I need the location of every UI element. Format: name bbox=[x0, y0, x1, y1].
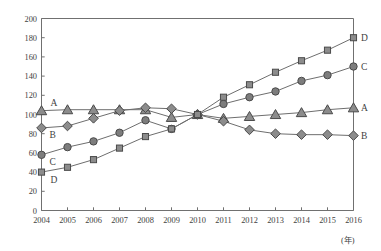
x-axis-tick-label: 2008 bbox=[137, 216, 154, 225]
series-marker-C bbox=[142, 117, 149, 124]
series-marker-D bbox=[168, 126, 174, 132]
series-marker-B bbox=[271, 129, 281, 139]
x-axis-tick-label: 2014 bbox=[293, 216, 311, 225]
series-marker-C bbox=[220, 100, 227, 107]
scan-bleed-artifact bbox=[0, 0, 381, 14]
series-start-label-C: C bbox=[50, 157, 56, 167]
x-axis-tick-label: 2009 bbox=[163, 216, 180, 225]
series-marker-B bbox=[37, 123, 47, 133]
series-marker-C bbox=[64, 143, 71, 150]
series-marker-D bbox=[116, 145, 122, 151]
series-marker-B bbox=[349, 131, 359, 141]
series-marker-B bbox=[245, 125, 255, 135]
series-marker-C bbox=[116, 129, 123, 136]
y-axis-tick-label: 200 bbox=[24, 15, 37, 24]
x-axis-tick-label: 2015 bbox=[319, 216, 336, 225]
series-marker-B bbox=[167, 104, 177, 114]
x-axis-tick-label: 2012 bbox=[241, 216, 258, 225]
y-axis-tick-label: 160 bbox=[24, 53, 37, 62]
series-marker-C bbox=[38, 151, 45, 158]
series-marker-C bbox=[298, 77, 305, 84]
y-axis-tick-label: 80 bbox=[29, 130, 37, 139]
x-axis-tick-label: 2005 bbox=[59, 216, 76, 225]
x-axis-tick-label: 2011 bbox=[215, 216, 231, 225]
series-line-D bbox=[42, 38, 354, 172]
series-marker-B bbox=[63, 121, 73, 131]
series-end-label-D: D bbox=[361, 33, 368, 43]
x-axis-unit-label: (年) bbox=[341, 235, 355, 245]
series-end-label-B: B bbox=[361, 131, 367, 141]
x-axis-tick-label: 2007 bbox=[111, 216, 128, 225]
series-start-label-D: D bbox=[51, 175, 58, 185]
series-marker-A bbox=[348, 103, 358, 112]
series-marker-D bbox=[90, 157, 96, 163]
series-end-label-C: C bbox=[361, 62, 367, 72]
x-axis-tick-label: 2016 bbox=[345, 216, 362, 225]
y-axis-tick-label: 0 bbox=[33, 207, 37, 216]
y-axis-tick-label: 60 bbox=[29, 149, 37, 158]
series-marker-D bbox=[194, 111, 200, 117]
series-marker-D bbox=[298, 58, 304, 64]
y-axis-tick-label: 100 bbox=[24, 111, 37, 120]
series-marker-C bbox=[324, 71, 331, 78]
y-axis-tick-label: 120 bbox=[24, 91, 37, 100]
series-marker-C bbox=[246, 94, 253, 101]
y-axis-tick-label: 40 bbox=[29, 168, 37, 177]
series-marker-D bbox=[350, 35, 356, 41]
y-axis-tick-label: 140 bbox=[24, 72, 37, 81]
series-marker-B bbox=[89, 114, 99, 124]
x-axis-tick-label: 2004 bbox=[33, 216, 51, 225]
series-marker-B bbox=[297, 130, 307, 140]
series-marker-D bbox=[220, 94, 226, 100]
x-axis-tick-label: 2006 bbox=[85, 216, 102, 225]
series-end-label-A: A bbox=[361, 103, 368, 113]
series-marker-D bbox=[142, 134, 148, 140]
chart-canvas: 0204060801001201401601802002004200520062… bbox=[0, 0, 381, 251]
line-chart: 0204060801001201401601802002004200520062… bbox=[0, 0, 381, 251]
series-marker-B bbox=[323, 130, 333, 140]
x-axis-tick-label: 2013 bbox=[267, 216, 284, 225]
series-marker-C bbox=[350, 63, 357, 70]
y-axis-tick-label: 20 bbox=[29, 187, 37, 196]
series-marker-D bbox=[38, 169, 44, 175]
series-start-label-B: B bbox=[50, 130, 56, 140]
series-marker-D bbox=[324, 47, 330, 53]
series-start-label-A: A bbox=[51, 98, 58, 108]
x-axis-tick-label: 2010 bbox=[189, 216, 206, 225]
y-axis-tick-label: 180 bbox=[24, 34, 37, 43]
series-marker-C bbox=[90, 138, 97, 145]
series-marker-D bbox=[272, 69, 278, 75]
series-marker-D bbox=[64, 164, 70, 170]
series-marker-D bbox=[246, 82, 252, 88]
series-marker-C bbox=[272, 88, 279, 95]
